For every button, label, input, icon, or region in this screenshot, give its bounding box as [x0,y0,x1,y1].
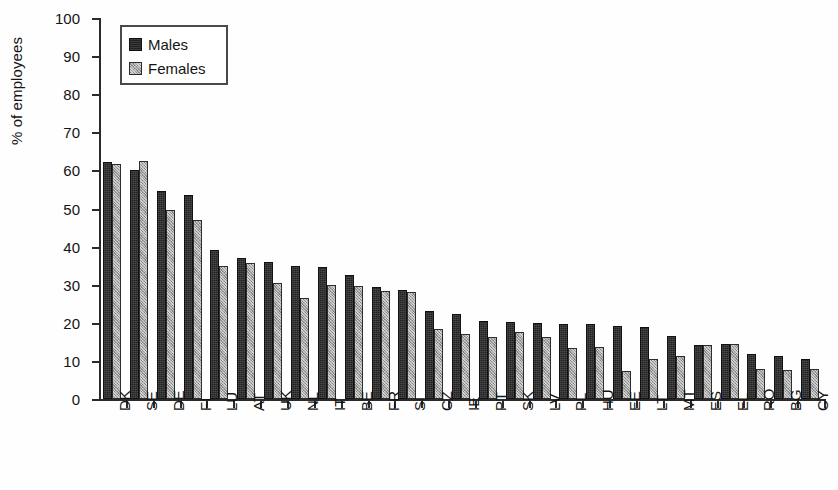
bar-female [730,344,739,399]
bar-female [568,348,577,399]
y-axis-tick [92,132,100,134]
y-axis-tick [92,361,100,363]
y-axis-tick [92,285,100,287]
x-axis-tick-label: NL [305,392,320,411]
y-axis-tick-label: 60 [40,163,80,178]
bar-female [166,210,175,399]
x-axis-tick-label: AT [251,393,266,411]
x-axis-tick-label: HU [600,389,615,411]
x-axis-tick-label: DE [171,390,186,411]
bar-male [237,258,246,399]
x-axis-tick-label: LV [547,394,562,411]
bar-male [452,314,461,399]
bar-male [184,195,193,399]
females-swatch-icon [129,62,142,75]
bar-male [613,326,622,399]
bar-group [237,258,255,399]
y-axis-tick [92,94,100,96]
bar-female [273,283,282,399]
y-axis-tick-label: 50 [40,202,80,217]
bar-group [398,290,416,399]
bar-group [372,287,390,399]
y-axis-tick-label: 70 [40,125,80,140]
x-axis-tick-label: IT [332,398,347,411]
bar-group [291,266,309,399]
bar-female [381,291,390,399]
bar-male [586,324,595,399]
x-axis-tick-label: CZ [439,391,454,411]
x-axis-tick-label: RO [761,389,776,412]
x-axis-tick-label: UK [278,390,293,411]
y-axis-tick [92,56,100,58]
bar-male [479,321,488,399]
bar-group [157,191,175,399]
y-axis-tick-label: 0 [40,392,80,407]
x-axis-tick-label: EE [627,391,642,411]
bar-group [452,314,470,399]
x-axis-tick-label: PL [573,393,588,411]
bar-male [506,322,515,399]
x-axis-tick-label: IE [466,397,481,411]
bar-group [559,324,577,399]
bar-male [398,290,407,399]
bar-group [103,162,121,399]
bar-male [533,323,542,399]
bar-female [649,359,658,399]
bar-female [300,298,309,399]
y-axis-tick [92,399,100,401]
bar-chart: % of employees 0102030405060708090100 DK… [0,0,838,490]
x-axis-tick-label: SI [412,397,427,411]
bar-group [210,250,228,399]
bar-female [193,220,202,399]
bar-male [372,287,381,399]
bar-male [640,327,649,399]
y-axis-tick [92,323,100,325]
y-axis-tick-label: 40 [40,240,80,255]
bar-group [479,321,497,399]
bar-male [103,162,112,399]
bar-male [318,267,327,399]
y-axis-label: % of employees [8,6,34,176]
x-axis-tick-label: EL [735,393,750,411]
bar-group [506,322,524,399]
bar-female [139,161,148,400]
y-axis-tick [92,18,100,20]
x-axis-tick-label: MT [681,389,696,411]
x-axis-tick-label: BG [788,389,803,411]
x-axis-tick-label: BE [359,391,374,411]
y-axis-tick-label: 90 [40,49,80,64]
x-axis-tick-label: DK [117,390,132,411]
legend-item-males: Males [129,32,226,56]
bar-female [461,334,470,399]
y-axis-tick-label: 10 [40,354,80,369]
bar-male [130,170,139,399]
x-axis-tick-label: FI [198,398,213,411]
bar-male [157,191,166,399]
bar-group [586,324,604,399]
males-swatch-icon [129,38,142,51]
bar-group [533,323,551,399]
y-axis-tick-label: 20 [40,316,80,331]
x-axis-tick-label: FR [386,391,401,411]
bar-female [112,164,121,399]
x-axis-tick-label: SK [520,391,535,411]
bar-female [434,329,443,399]
bar-female [246,263,255,399]
bar-female [515,332,524,399]
bar-male [210,250,219,399]
bar-group [613,326,631,399]
y-axis-tick [92,170,100,172]
x-axis-tick-label: ES [708,391,723,411]
y-axis-tick [92,247,100,249]
bar-female [542,337,551,399]
y-axis-tick-label: 100 [40,11,80,26]
bar-group [318,267,336,399]
legend-label-females: Females [148,61,206,76]
x-axis-tick-label: LT [654,395,669,411]
bar-group [184,195,202,399]
legend-item-females: Females [129,56,226,80]
bar-male [425,311,434,399]
bar-group [130,161,148,400]
bar-male [264,262,273,399]
bar-group [425,311,443,399]
